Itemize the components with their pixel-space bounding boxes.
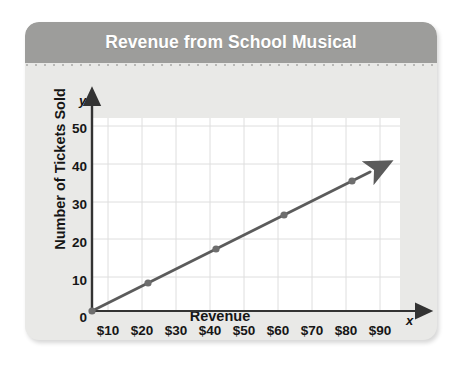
chart-title-bar: Revenue from School Musical [25,22,437,63]
grid-lines [92,118,400,311]
data-point [144,279,151,286]
chart-plot [25,68,437,340]
data-point [88,307,95,314]
data-point [348,177,355,184]
chart-body: Number of Tickets Sold Revenue y x 50 40… [25,68,437,340]
data-point [212,245,219,252]
data-point [280,211,287,218]
axis-lines [91,104,417,311]
chart-card: Revenue from School Musical Number of Ti… [25,22,437,340]
chart-title: Revenue from School Musical [105,32,357,53]
data-line [92,172,370,311]
